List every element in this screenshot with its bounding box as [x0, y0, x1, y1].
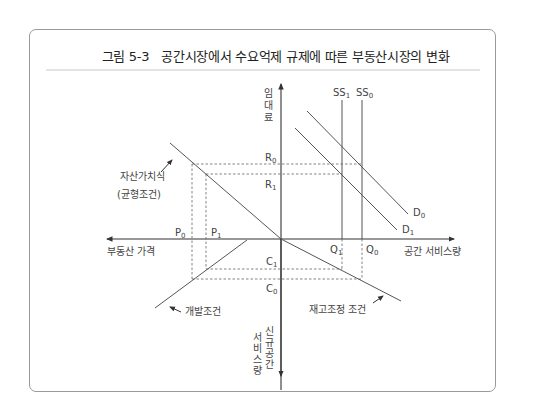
new-space-axis-label: 신 규 공 간 서 비 스 량 [253, 326, 274, 376]
demand-line-d0 [307, 111, 408, 214]
demand-line-d1 [295, 128, 397, 230]
label-r0: R0 [265, 152, 276, 165]
development-pointer-arrow [170, 307, 181, 312]
label-d1: D1 [402, 224, 414, 237]
stock-adjustment-label: 재고조정 조건 [309, 304, 366, 315]
svg-text:서: 서 [253, 332, 262, 343]
svg-text:비: 비 [253, 343, 262, 354]
svg-text:임: 임 [264, 87, 273, 99]
svg-text:규: 규 [265, 337, 274, 348]
svg-text:스: 스 [253, 354, 262, 365]
asset-value-label: 자산가치식 [120, 171, 165, 182]
svg-text:공: 공 [265, 348, 274, 359]
label-ss1: SS1 [333, 87, 350, 100]
label-c0: C0 [266, 283, 277, 296]
label-p0: P0 [175, 227, 186, 240]
development-line [155, 240, 247, 308]
label-d0: D0 [413, 207, 425, 220]
four-quadrant-diagram: 임 대 료 신 규 공 간 서 비 스 량 공간 서비스량 부동산 가격 SS1… [0, 0, 551, 415]
asset-value-sublabel: (균형조건) [117, 189, 161, 200]
rent-axis-label: 임 대 료 [264, 87, 273, 123]
label-r1: R1 [265, 179, 276, 192]
label-q1: Q1 [330, 244, 342, 257]
label-c1: C1 [266, 256, 277, 269]
space-service-axis-label: 공간 서비스량 [404, 246, 461, 257]
label-ss0: SS0 [356, 87, 373, 100]
stock-adjustment-pointer-arrow [373, 296, 383, 303]
svg-text:대: 대 [264, 100, 273, 111]
label-q0: Q0 [366, 244, 378, 257]
svg-text:간: 간 [265, 359, 274, 370]
svg-text:료: 료 [264, 112, 273, 123]
label-p1: P1 [211, 227, 222, 240]
svg-text:신: 신 [265, 326, 274, 337]
property-price-axis-label: 부동산 가격 [107, 245, 155, 257]
development-label: 개발조건 [185, 306, 221, 317]
svg-text:량: 량 [253, 365, 262, 376]
